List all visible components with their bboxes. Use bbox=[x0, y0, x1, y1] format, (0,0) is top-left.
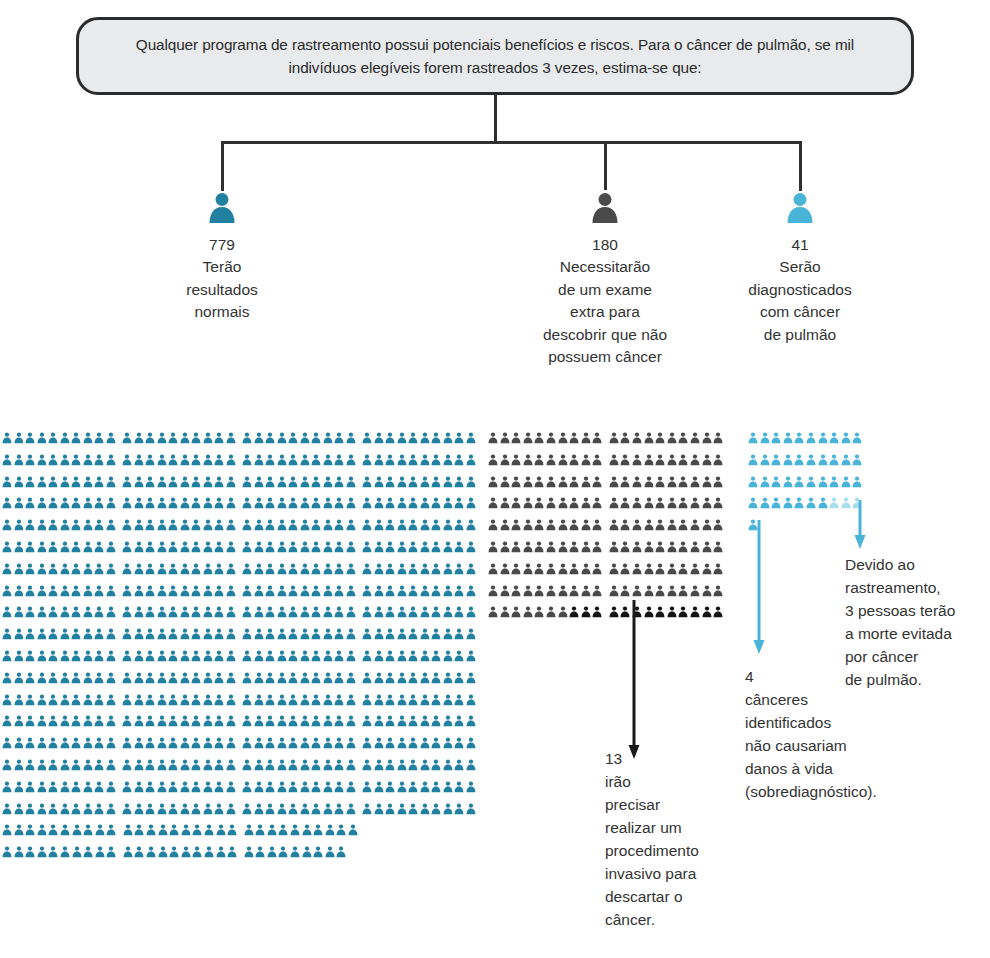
person-icon bbox=[288, 694, 298, 706]
person-icon bbox=[191, 497, 201, 509]
person-icon bbox=[288, 519, 298, 531]
person-icon bbox=[191, 672, 201, 684]
person-icon bbox=[254, 454, 264, 466]
person-icon bbox=[620, 563, 630, 575]
person-icon bbox=[267, 824, 277, 836]
person-icon bbox=[134, 803, 144, 815]
person-icon bbox=[300, 650, 310, 662]
person-icon bbox=[592, 432, 602, 444]
person-icon bbox=[771, 454, 781, 466]
person-icon bbox=[374, 803, 384, 815]
person-icon bbox=[277, 497, 287, 509]
person-icon bbox=[214, 759, 224, 771]
person-icon bbox=[300, 628, 310, 640]
person-icon bbox=[94, 650, 104, 662]
person-icon bbox=[385, 803, 395, 815]
person-icon bbox=[818, 432, 828, 444]
person-icon bbox=[346, 606, 356, 618]
person-icon bbox=[569, 563, 579, 575]
person-icon bbox=[122, 541, 132, 553]
person-icon bbox=[431, 432, 441, 444]
person-icon bbox=[60, 759, 70, 771]
person-icon bbox=[443, 497, 453, 509]
person-icon bbox=[242, 737, 252, 749]
person-icon bbox=[397, 737, 407, 749]
person-icon bbox=[191, 585, 201, 597]
person-icon bbox=[454, 454, 464, 466]
person-icon bbox=[408, 781, 418, 793]
person-icon bbox=[94, 519, 104, 531]
person-icon bbox=[408, 628, 418, 640]
person-icon bbox=[300, 585, 310, 597]
person-icon bbox=[466, 694, 476, 706]
person-icon bbox=[644, 497, 654, 509]
person-icon bbox=[192, 824, 202, 836]
header-text: Qualquer programa de rastreamento possui… bbox=[105, 33, 885, 80]
person-icon bbox=[168, 803, 178, 815]
person-icon bbox=[454, 497, 464, 509]
person-icon bbox=[277, 606, 287, 618]
person-icon bbox=[106, 585, 116, 597]
person-icon bbox=[2, 846, 12, 858]
person-icon bbox=[226, 803, 236, 815]
person-icon bbox=[748, 454, 758, 466]
pictogram-row bbox=[2, 694, 482, 706]
person-icon bbox=[546, 519, 556, 531]
person-icon bbox=[214, 781, 224, 793]
person-icon bbox=[609, 585, 619, 597]
person-icon bbox=[265, 563, 275, 575]
person-icon bbox=[48, 541, 58, 553]
person-icon bbox=[226, 781, 236, 793]
person-icon bbox=[454, 476, 464, 488]
person-icon bbox=[408, 694, 418, 706]
person-icon bbox=[443, 759, 453, 771]
person-icon bbox=[609, 563, 619, 575]
person-icon bbox=[277, 476, 287, 488]
person-icon bbox=[288, 737, 298, 749]
person-icon bbox=[288, 803, 298, 815]
person-icon bbox=[254, 803, 264, 815]
person-icon bbox=[690, 563, 700, 575]
person-icon bbox=[83, 541, 93, 553]
person-icon bbox=[667, 454, 677, 466]
person-icon bbox=[311, 519, 321, 531]
person-icon bbox=[168, 432, 178, 444]
person-icon bbox=[523, 454, 533, 466]
person-icon bbox=[454, 715, 464, 727]
person-icon bbox=[334, 759, 344, 771]
person-icon bbox=[254, 541, 264, 553]
person-icon bbox=[443, 454, 453, 466]
person-icon bbox=[558, 519, 568, 531]
person-icon bbox=[655, 563, 665, 575]
person-icon bbox=[134, 541, 144, 553]
person-icon bbox=[168, 563, 178, 575]
person-icon bbox=[300, 497, 310, 509]
person-icon bbox=[431, 563, 441, 575]
person-icon bbox=[713, 432, 723, 444]
person-icon bbox=[277, 563, 287, 575]
person-icon bbox=[397, 454, 407, 466]
person-icon bbox=[690, 606, 700, 618]
person-icon bbox=[265, 585, 275, 597]
person-icon bbox=[168, 781, 178, 793]
person-icon bbox=[37, 803, 47, 815]
person-icon bbox=[569, 476, 579, 488]
person-icon bbox=[242, 497, 252, 509]
person-icon bbox=[157, 737, 167, 749]
person-icon bbox=[83, 650, 93, 662]
person-icon bbox=[157, 781, 167, 793]
person-icon bbox=[702, 606, 712, 618]
person-icon bbox=[466, 715, 476, 727]
pictogram-row bbox=[748, 476, 873, 488]
person-icon bbox=[500, 432, 510, 444]
person-icon bbox=[288, 628, 298, 640]
person-icon bbox=[60, 737, 70, 749]
person-icon bbox=[203, 715, 213, 727]
person-icon bbox=[374, 585, 384, 597]
person-icon bbox=[290, 846, 300, 858]
person-icon bbox=[83, 781, 93, 793]
person-icon bbox=[500, 497, 510, 509]
person-icon bbox=[277, 694, 287, 706]
person-icon bbox=[644, 541, 654, 553]
person-icon bbox=[191, 694, 201, 706]
